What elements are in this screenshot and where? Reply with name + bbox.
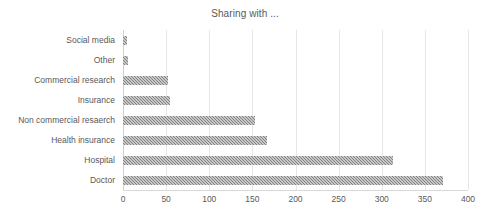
x-axis-tick-label: 50 [161, 192, 170, 206]
bar[interactable] [123, 76, 168, 85]
bars-layer [123, 30, 468, 190]
chart-title: Sharing with ... [0, 8, 490, 19]
bar-row[interactable] [123, 150, 468, 170]
bar[interactable] [123, 136, 267, 145]
y-axis-label: Health insurance [0, 130, 119, 150]
bar-row[interactable] [123, 110, 468, 130]
y-axis-label: Hospital [0, 150, 119, 170]
bar-row[interactable] [123, 30, 468, 50]
y-axis-label: Insurance [0, 90, 119, 110]
bar-row[interactable] [123, 130, 468, 150]
x-axis-tick-label: 350 [418, 192, 432, 206]
y-axis-label: Social media [0, 30, 119, 50]
bar[interactable] [123, 176, 443, 185]
plot-area [123, 30, 468, 190]
bar[interactable] [123, 116, 255, 125]
x-axis-tick-labels: 050100150200250300350400 [123, 192, 468, 208]
bar-chart: Sharing with ... Social mediaOtherCommer… [0, 0, 490, 217]
bar-row[interactable] [123, 90, 468, 110]
bar[interactable] [123, 36, 127, 45]
y-axis-label: Commercial research [0, 70, 119, 90]
bar-row[interactable] [123, 170, 468, 190]
y-axis-label: Doctor [0, 170, 119, 190]
x-axis-tick-label: 150 [245, 192, 259, 206]
y-axis-label: Non commercial resaerch [0, 110, 119, 130]
x-axis-tick-label: 0 [121, 192, 126, 206]
y-axis-label: Other [0, 50, 119, 70]
bar-row[interactable] [123, 70, 468, 90]
bar-row[interactable] [123, 50, 468, 70]
x-axis-tick-label: 400 [461, 192, 475, 206]
bar[interactable] [123, 156, 393, 165]
x-axis-baseline [123, 190, 468, 191]
bar[interactable] [123, 56, 128, 65]
x-axis-tick-label: 300 [375, 192, 389, 206]
y-axis-category-labels: Social mediaOtherCommercial researchInsu… [0, 30, 119, 190]
x-axis-tick-label: 100 [202, 192, 216, 206]
x-axis-tick-label: 200 [288, 192, 302, 206]
x-axis-tick-label: 250 [332, 192, 346, 206]
bar[interactable] [123, 96, 170, 105]
gridline-400 [468, 30, 469, 190]
